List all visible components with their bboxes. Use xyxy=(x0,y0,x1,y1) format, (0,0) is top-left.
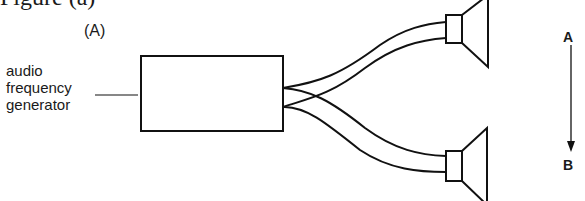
diagram-canvas xyxy=(0,0,585,201)
audio-frequency-generator-box xyxy=(141,56,283,131)
top-cable-wire-lower xyxy=(283,38,446,107)
position-label-b: B xyxy=(563,157,573,173)
bottom-speaker-cone xyxy=(462,128,487,201)
position-label-a: A xyxy=(563,29,573,45)
top-speaker-cone xyxy=(462,0,488,67)
bottom-cable-wire-lower xyxy=(283,107,446,172)
bottom-speaker-magnet xyxy=(446,151,462,181)
arrow-down-icon xyxy=(567,141,575,152)
top-speaker-magnet xyxy=(446,15,462,43)
top-cable-wire-upper xyxy=(283,22,446,88)
